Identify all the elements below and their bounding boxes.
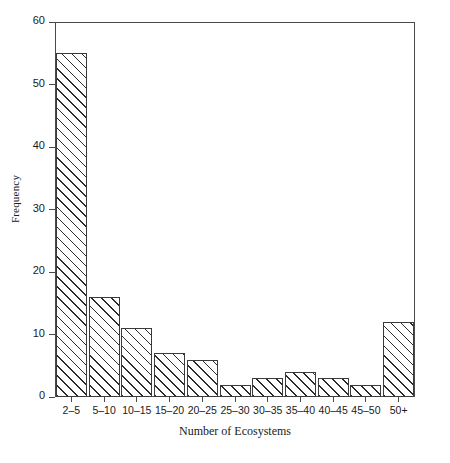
x-tick-mark (398, 397, 399, 402)
y-tick-mark (49, 397, 55, 398)
y-tick-mark (49, 209, 55, 210)
x-tick-mark (365, 397, 366, 402)
x-tick-mark (267, 397, 268, 402)
bar (383, 322, 414, 397)
x-tick-label: 2–5 (63, 404, 81, 416)
bar (56, 53, 87, 397)
bar (350, 385, 381, 398)
x-tick-label: 25–30 (220, 404, 249, 416)
y-tick-mark (49, 334, 55, 335)
x-tick-label: 40–45 (319, 404, 348, 416)
x-tick-mark (202, 397, 203, 402)
bar (187, 360, 218, 398)
bar (154, 353, 185, 397)
bar (285, 372, 316, 397)
y-tick-label: 10 (33, 327, 45, 339)
x-tick-label: 10–15 (122, 404, 151, 416)
bar (252, 378, 283, 397)
y-axis-title: Frequency (6, 0, 24, 397)
y-axis-title-text: Frequency (9, 174, 21, 222)
x-tick-label: 50+ (390, 404, 408, 416)
y-tick-mark (49, 22, 55, 23)
bar (121, 328, 152, 397)
y-tick-label: 20 (33, 264, 45, 276)
x-tick-label: 35–40 (286, 404, 315, 416)
x-tick-label: 45–50 (351, 404, 380, 416)
histogram-figure: Frequency 0102030405060 2–55–1010–1515–2… (0, 0, 450, 463)
y-tick-label: 40 (33, 139, 45, 151)
x-tick-label: 15–20 (155, 404, 184, 416)
x-tick-mark (235, 397, 236, 402)
x-tick-label: 30–35 (253, 404, 282, 416)
x-axis-title: Number of Ecosystems (55, 424, 415, 439)
y-tick-mark (49, 84, 55, 85)
y-tick-label: 60 (33, 14, 45, 26)
bar (89, 297, 120, 397)
x-tick-mark (136, 397, 137, 402)
bar (220, 385, 251, 398)
x-tick-label: 5–10 (92, 404, 115, 416)
bar (318, 378, 349, 397)
x-tick-mark (71, 397, 72, 402)
x-tick-label: 20–25 (188, 404, 217, 416)
y-tick-mark (49, 272, 55, 273)
x-tick-mark (169, 397, 170, 402)
y-tick-label: 50 (33, 77, 45, 89)
y-tick-mark (49, 147, 55, 148)
x-tick-mark (333, 397, 334, 402)
y-tick-label: 30 (33, 202, 45, 214)
y-tick-label: 0 (39, 389, 45, 401)
x-tick-mark (300, 397, 301, 402)
x-tick-mark (104, 397, 105, 402)
